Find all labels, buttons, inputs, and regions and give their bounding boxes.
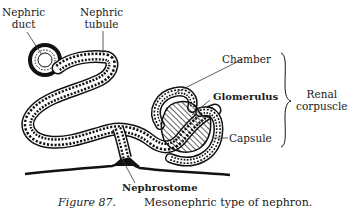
figure-caption: Figure 87.Mesonephric type of nephron. (58, 196, 312, 209)
label-capsule: Capsule (229, 132, 272, 144)
label-nephric-duct: Nephric duct (2, 6, 45, 30)
label-glomerulus: Glomerulus (213, 91, 278, 103)
renal-corpuscle-brace (281, 53, 291, 147)
caption-text: Mesonephric type of nephron. (144, 196, 312, 209)
label-renal-corpuscle-line1: Renal (296, 88, 348, 100)
label-nephric-tubule-line1: Nephric (80, 6, 123, 18)
label-nephric-duct-line2: duct (2, 18, 45, 30)
label-renal-corpuscle: Renal corpuscle (296, 88, 348, 112)
label-nephric-tubule: Nephric tubule (80, 6, 123, 30)
label-nephrostome: Nephrostome (122, 182, 198, 194)
label-nephric-duct-line1: Nephric (2, 6, 45, 18)
caption-figure-number: Figure 87. (58, 196, 116, 209)
label-nephric-tubule-line2: tubule (80, 18, 123, 30)
label-chamber: Chamber (222, 53, 271, 65)
label-renal-corpuscle-line2: corpuscle (296, 100, 348, 112)
